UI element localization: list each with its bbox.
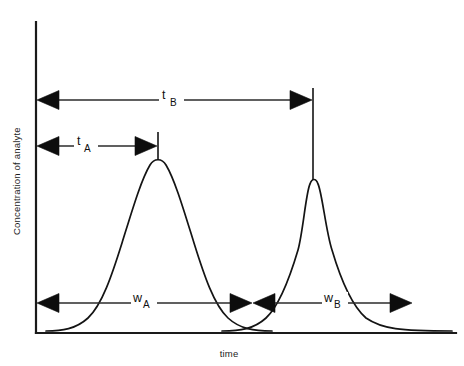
tb-arrowhead-right: [290, 91, 312, 110]
dimension-wa: w A: [37, 291, 252, 313]
ta-arrowhead-left: [37, 137, 59, 156]
y-axis-label: Concentration of analyte: [11, 127, 22, 235]
dimension-tb: t B: [37, 88, 312, 110]
wb-arrowhead-left: [253, 294, 275, 313]
wb-label-subscript: B: [334, 299, 341, 310]
tb-arrowhead-left: [37, 91, 59, 110]
chromatogram-plot: t B t A w A: [0, 0, 464, 366]
wa-arrowhead-right: [230, 294, 252, 313]
chromatogram-figure: t B t A w A: [0, 0, 464, 366]
wa-label-symbol: w: [132, 291, 143, 305]
ta-label-symbol: t: [77, 134, 81, 148]
dimension-ta: t A: [37, 134, 157, 156]
wb-arrowhead-right: [390, 294, 412, 313]
tb-label-symbol: t: [162, 88, 166, 102]
axes-group: [36, 22, 456, 333]
wa-arrowhead-left: [37, 294, 59, 313]
tb-label-subscript: B: [170, 97, 177, 108]
wb-label-symbol: w: [323, 291, 334, 305]
ta-arrowhead-right: [135, 137, 157, 156]
wa-label-subscript: A: [143, 299, 150, 310]
x-axis-label: time: [220, 348, 239, 359]
ta-label-subscript: A: [84, 143, 91, 154]
